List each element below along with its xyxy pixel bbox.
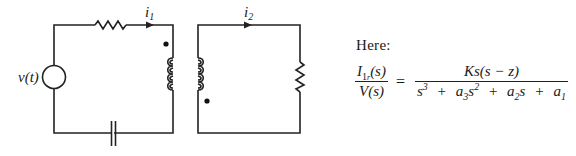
current-arrow-i2-icon xyxy=(244,22,252,29)
load-resistor-icon xyxy=(296,62,304,92)
wire-left-top xyxy=(54,25,95,66)
lhs-denominator: V(s) xyxy=(357,82,386,101)
voltage-source-icon xyxy=(43,66,66,89)
rhs-denominator: s3 + a3s2 + a2s + a1 xyxy=(415,82,568,101)
resistor-icon xyxy=(95,21,126,29)
wire-bottom-left xyxy=(54,88,111,133)
transformer-circuit-diagram: i1 v(t) i2 xyxy=(0,0,320,156)
rhs-numerator: Ks(s − z) xyxy=(462,62,521,81)
wire-secondary-left-top xyxy=(198,25,300,62)
source-label: v(t) xyxy=(18,69,39,86)
equals-sign: = xyxy=(396,73,405,91)
secondary-loop: i2 xyxy=(198,4,304,133)
primary-loop: i1 v(t) xyxy=(18,4,173,146)
wire-right-bottom xyxy=(114,90,173,133)
current-arrow-i1-icon xyxy=(146,22,154,29)
lhs-fraction: I1r(s) V(s) xyxy=(355,62,388,101)
wire-secondary-bottom xyxy=(198,90,300,133)
polarity-dot-secondary-icon xyxy=(204,98,209,103)
lhs-numerator: I1r(s) xyxy=(355,62,388,81)
current-label-i1: i1 xyxy=(145,4,154,22)
rhs-fraction: Ks(s − z) s3 + a3s2 + a2s + a1 xyxy=(415,62,568,101)
here-label: Here: xyxy=(356,37,391,54)
polarity-dot-primary-icon xyxy=(163,41,168,46)
current-label-i2: i2 xyxy=(244,4,253,22)
transfer-function-equation: I1r(s) V(s) = Ks(s − z) s3 + a3s2 + a2s … xyxy=(355,62,568,101)
